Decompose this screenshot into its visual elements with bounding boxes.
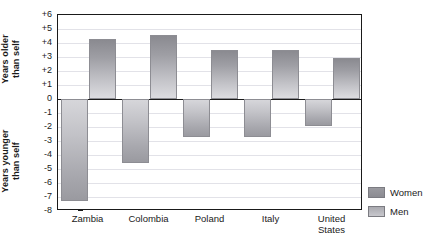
y-tick-label: +2 — [26, 66, 52, 75]
chart-legend: WomenMen — [368, 185, 430, 223]
bar-men-united-states — [333, 58, 360, 99]
y-axis-title-younger: Years younger than self — [0, 113, 22, 209]
legend-swatch-men — [368, 206, 385, 217]
y-axis-title-older: Years older than self — [0, 11, 22, 107]
y-tick-label: -3 — [26, 136, 52, 145]
y-tick-label: +1 — [26, 80, 52, 89]
x-axis-labels: ZambiaColombiaPolandItalyUnitedStates — [57, 213, 362, 243]
bar-men-poland — [211, 50, 238, 99]
y-tick-label: +6 — [26, 10, 52, 19]
legend-label: Women — [390, 187, 423, 198]
legend-item-men[interactable]: Men — [368, 204, 430, 219]
y-tick-label: +5 — [26, 24, 52, 33]
bar-women-poland — [183, 99, 210, 137]
bar-women-zambia — [61, 99, 88, 201]
y-tick-label: +4 — [26, 38, 52, 47]
y-tick-label: -2 — [26, 122, 52, 131]
y-axis-title-younger-line1: Years younger — [0, 129, 10, 192]
y-tick-label: -1 — [26, 108, 52, 117]
legend-item-women[interactable]: Women — [368, 185, 430, 200]
y-tick-label: -4 — [26, 150, 52, 159]
y-tick-label: 0 — [26, 94, 52, 103]
gridline — [58, 155, 361, 156]
bar-women-colombia — [122, 99, 149, 163]
x-tick-label: UnitedStates — [292, 213, 372, 235]
y-tick-label: +3 — [26, 52, 52, 61]
gridline — [58, 183, 361, 184]
y-axis-title-older-line1: Years older — [0, 34, 10, 84]
plot-area — [57, 14, 362, 210]
bar-men-italy — [272, 50, 299, 99]
gridline — [58, 141, 361, 142]
legend-swatch-women — [368, 187, 385, 198]
gridline — [58, 29, 361, 30]
y-tick-label: -7 — [26, 192, 52, 201]
gridline — [58, 169, 361, 170]
y-axis-title-older-line2: than self — [11, 40, 21, 78]
y-axis-ticks: +6+5+4+3+2+10-1-2-3-4-5-6-7-8 — [26, 14, 52, 210]
chart-container: Years older than self Years younger than… — [0, 0, 430, 244]
bar-men-colombia — [150, 35, 177, 99]
bar-men-zambia — [89, 39, 116, 99]
bar-women-united-states — [305, 99, 332, 126]
y-axis-title-younger-line2: than self — [11, 142, 21, 180]
gridline — [58, 197, 361, 198]
bar-women-italy — [244, 99, 271, 137]
y-tick-label: -6 — [26, 178, 52, 187]
legend-label: Men — [390, 206, 408, 217]
y-tick-label: -5 — [26, 164, 52, 173]
